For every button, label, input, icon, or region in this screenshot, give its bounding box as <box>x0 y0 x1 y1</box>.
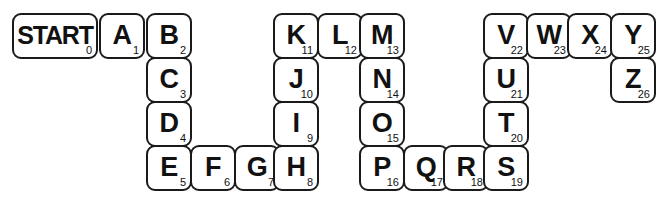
cell-letter: START <box>14 23 96 48</box>
cell-number: 23 <box>554 44 566 57</box>
board-cell-start[interactable]: START0 <box>12 13 98 59</box>
cell-number: 9 <box>307 132 313 145</box>
cell-number: 26 <box>638 88 650 101</box>
cell-number: 5 <box>180 176 186 189</box>
board-cell-o[interactable]: O15 <box>359 101 405 147</box>
cell-number: 4 <box>180 132 186 145</box>
board-cell-h[interactable]: H8 <box>273 145 319 191</box>
cell-number: 6 <box>224 176 230 189</box>
cell-number: 24 <box>595 44 607 57</box>
board-cell-v[interactable]: V22 <box>483 13 529 59</box>
cell-number: 8 <box>307 176 313 189</box>
cell-number: 21 <box>511 88 523 101</box>
cell-number: 18 <box>471 176 483 189</box>
board-cell-d[interactable]: D4 <box>146 101 192 147</box>
cell-number: 22 <box>511 44 523 57</box>
cell-number: 13 <box>387 44 399 57</box>
cell-number: 14 <box>387 88 399 101</box>
cell-number: 1 <box>133 44 139 57</box>
cell-number: 12 <box>345 44 357 57</box>
board-cell-s[interactable]: S19 <box>483 145 529 191</box>
board-cell-z[interactable]: Z26 <box>610 57 656 103</box>
board-cell-m[interactable]: M13 <box>359 13 405 59</box>
game-board: START0A1B2C3D4E5F6G7H8I9J10K11L12M13N14O… <box>0 0 661 203</box>
board-cell-c[interactable]: C3 <box>146 57 192 103</box>
board-cell-e[interactable]: E5 <box>146 145 192 191</box>
cell-number: 20 <box>511 132 523 145</box>
board-cell-y[interactable]: Y25 <box>610 13 656 59</box>
cell-number: 11 <box>302 44 313 57</box>
board-cell-x[interactable]: X24 <box>567 13 613 59</box>
board-cell-p[interactable]: P16 <box>359 145 405 191</box>
board-cell-w[interactable]: W23 <box>526 13 572 59</box>
board-cell-f[interactable]: F6 <box>190 145 236 191</box>
board-cell-a[interactable]: A1 <box>99 13 145 59</box>
cell-number: 15 <box>387 132 399 145</box>
cell-number: 3 <box>180 88 186 101</box>
cell-number: 10 <box>301 88 313 101</box>
board-cell-l[interactable]: L12 <box>317 13 363 59</box>
cell-number: 2 <box>180 44 186 57</box>
cell-number: 17 <box>431 176 443 189</box>
board-cell-i[interactable]: I9 <box>273 101 319 147</box>
board-cell-n[interactable]: N14 <box>359 57 405 103</box>
cell-number: 16 <box>387 176 399 189</box>
board-cell-b[interactable]: B2 <box>146 13 192 59</box>
cell-number: 0 <box>86 44 92 57</box>
cell-number: 19 <box>511 176 523 189</box>
board-cell-t[interactable]: T20 <box>483 101 529 147</box>
board-cell-u[interactable]: U21 <box>483 57 529 103</box>
cell-number: 25 <box>638 44 650 57</box>
board-cell-j[interactable]: J10 <box>273 57 319 103</box>
board-cell-k[interactable]: K11 <box>273 13 319 59</box>
